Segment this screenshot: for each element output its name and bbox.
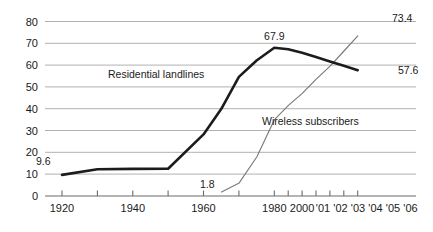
x-tick-label: 2000	[290, 202, 314, 214]
y-tick-label: 50	[26, 81, 38, 93]
series-line-wireless-subscribers	[222, 36, 358, 192]
y-tick-label: 80	[26, 16, 38, 28]
line-chart: 80 70 60 50 40 30 20 10 0	[0, 0, 433, 232]
x-tick-label: '03	[351, 202, 365, 214]
series-line-residential-landlines	[62, 48, 358, 175]
data-point-labels: 9.6 67.9 57.6 1.8 73.4	[36, 12, 419, 190]
series-annotations: Residential landlines Wireless subscribe…	[108, 68, 359, 127]
point-label-wireless-start: 1.8	[200, 178, 215, 190]
y-tick-label: 10	[26, 168, 38, 180]
y-tick-label: 40	[26, 103, 38, 115]
series-label-wireless-subscribers: Wireless subscribers	[262, 115, 359, 127]
x-tick-label: 1960	[191, 202, 215, 214]
x-tick-label: '04	[368, 202, 382, 214]
point-label-landlines-end: 57.6	[398, 64, 419, 76]
x-tick-label: '05	[386, 202, 400, 214]
y-tick-label: 60	[26, 59, 38, 71]
x-tick-label: 1980	[262, 202, 286, 214]
gridlines	[45, 22, 416, 175]
x-tick-label: 1920	[50, 202, 74, 214]
point-label-wireless-end: 73.4	[392, 12, 413, 24]
x-axis	[45, 191, 416, 197]
chart-container: 80 70 60 50 40 30 20 10 0	[0, 0, 433, 232]
x-tick-label: '01	[316, 202, 330, 214]
y-tick-label: 0	[32, 190, 38, 202]
y-axis-labels: 80 70 60 50 40 30 20 10 0	[26, 16, 38, 202]
x-tick-label: '06	[403, 202, 417, 214]
point-label-landlines-peak: 67.9	[264, 30, 285, 42]
point-label-landlines-start: 9.6	[36, 155, 51, 167]
x-tick-label: '02	[333, 202, 347, 214]
y-tick-label: 70	[26, 37, 38, 49]
x-tick-label: 1940	[121, 202, 145, 214]
y-tick-label: 30	[26, 125, 38, 137]
x-axis-labels: 1920 1940 1960 1980 2000 '01 '02 '03 '04…	[50, 202, 418, 214]
series-label-residential-landlines: Residential landlines	[108, 68, 204, 80]
